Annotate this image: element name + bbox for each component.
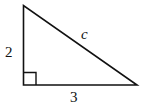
vertical-leg-label: 2 (5, 45, 13, 60)
hypotenuse-label: c (81, 27, 88, 42)
right-angle-marker (24, 73, 37, 86)
horizontal-leg-label: 3 (70, 90, 78, 105)
right-triangle (24, 6, 138, 86)
